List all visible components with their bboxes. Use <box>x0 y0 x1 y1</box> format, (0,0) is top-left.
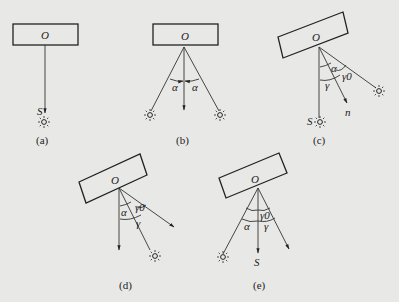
panel-b: O α α (b) <box>144 24 226 147</box>
angle-arc-alpha <box>320 63 331 67</box>
source-icon-left <box>144 109 156 121</box>
angle-arc-gamma <box>320 75 340 80</box>
normal-label: n <box>345 106 351 118</box>
source-icon-right <box>214 109 226 121</box>
beam-incident <box>119 188 150 250</box>
center-label: O <box>251 173 259 185</box>
angle-gamma0-label: γ0 <box>135 201 145 213</box>
angle-label-right: α <box>192 81 198 93</box>
source-icon <box>217 251 229 263</box>
center-label: O <box>181 30 189 42</box>
panel-c: O α γ0 γ n S (c) <box>278 12 385 147</box>
angle-gamma-label: γ <box>325 79 330 91</box>
center-label: O <box>41 29 49 41</box>
angle-gamma0-label: γ0 <box>342 70 352 82</box>
panel-caption: (c) <box>313 134 326 147</box>
source-icon-bottom <box>314 116 326 128</box>
panel-e: O γ0 α γ S (e) <box>217 153 289 292</box>
panel-caption: (e) <box>253 279 266 292</box>
beam-diffracted-arrow <box>119 188 174 227</box>
angle-gamma-label: γ <box>136 217 141 229</box>
source-label: S <box>254 256 260 268</box>
angle-alpha-label: α <box>331 62 337 74</box>
panel-a: O S (a) <box>13 24 78 147</box>
angle-alpha-label: α <box>244 220 250 232</box>
source-label: S <box>37 105 43 117</box>
panel-caption: (b) <box>176 134 189 147</box>
source-label: S <box>307 115 313 127</box>
panel-d: O α γ0 γ (d) <box>79 154 174 292</box>
source-icon <box>149 250 161 262</box>
source-icon <box>373 85 385 97</box>
panel-caption: (a) <box>36 134 49 147</box>
diagram-canvas: O S (a) O α α (b) O α γ0 γ n S (c <box>0 0 399 302</box>
beam-right <box>184 47 219 111</box>
angle-alpha-label: α <box>121 206 127 218</box>
center-label: O <box>312 31 320 43</box>
source-icon <box>38 116 50 128</box>
panel-caption: (d) <box>119 279 132 292</box>
beam-incident <box>223 188 258 254</box>
angle-gamma-label: γ <box>264 220 269 232</box>
center-label: O <box>111 174 119 186</box>
angle-label-left: α <box>172 81 178 93</box>
beam-left <box>151 47 184 111</box>
